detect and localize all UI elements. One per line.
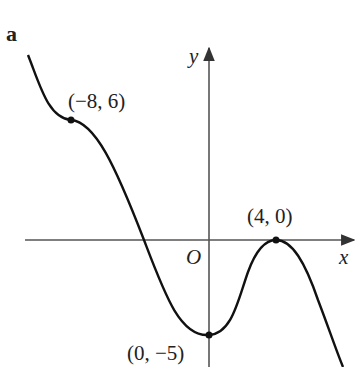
x-axis-label: x	[338, 245, 349, 269]
part-label: a	[6, 21, 17, 46]
point-inflection	[68, 117, 75, 124]
point-label-inflection: (−8, 6)	[68, 89, 125, 113]
origin-label: O	[186, 245, 201, 269]
point-maximum	[273, 237, 280, 244]
point-minimum	[206, 332, 213, 339]
point-label-minimum: (0, −5)	[127, 341, 184, 365]
y-axis-label: y	[187, 44, 199, 68]
point-label-maximum: (4, 0)	[247, 204, 293, 228]
graph: a y x O (−8, 6) (4, 0) (0, −5)	[0, 0, 364, 367]
